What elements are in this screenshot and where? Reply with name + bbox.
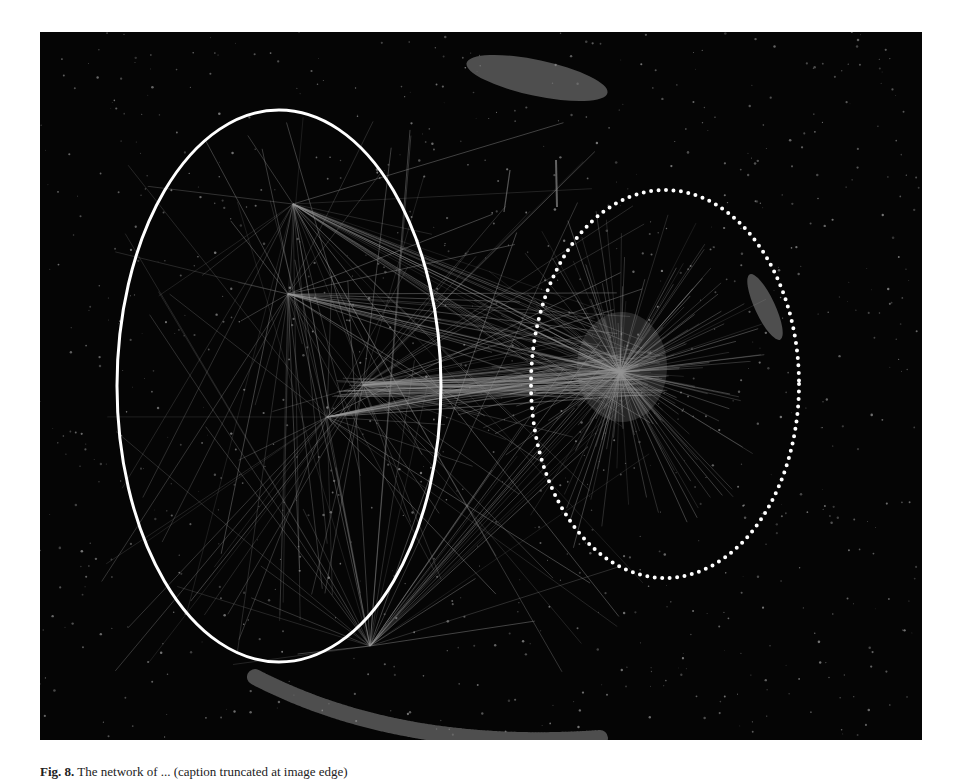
spike	[504, 170, 510, 212]
spike	[556, 160, 557, 207]
top-blob	[463, 45, 611, 110]
edge	[327, 417, 590, 583]
network-figure	[40, 32, 922, 740]
figure-caption: Fig. 8. The network of ... (caption trun…	[40, 764, 920, 783]
dense-core-glow	[577, 312, 667, 422]
node	[40, 683, 41, 684]
caption-label: Fig. 8.	[40, 764, 74, 779]
network-graph	[40, 32, 922, 740]
caption-text: The network of ... (caption truncated at…	[77, 764, 347, 779]
bottom-arc	[255, 677, 600, 740]
